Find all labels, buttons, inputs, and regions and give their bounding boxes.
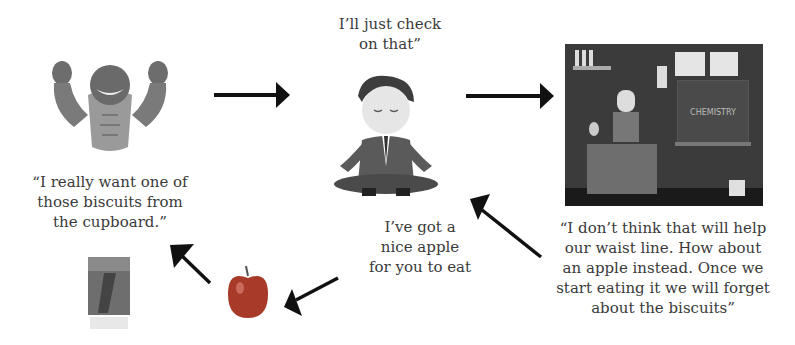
arrow-offer-to-apple (284, 278, 338, 316)
meditating-man-icon (322, 70, 448, 200)
shelf (573, 66, 611, 70)
test-tube (589, 50, 593, 66)
poster (675, 52, 705, 76)
teacher-body (613, 112, 639, 142)
biscuit-box-icon (84, 253, 134, 333)
flask (589, 122, 599, 136)
books (729, 180, 745, 196)
apple-icon (224, 264, 272, 320)
chemistry-teacher-icon: CHEMISTRY (565, 44, 763, 206)
impulse-caption: “I really want one of those biscuits fro… (20, 172, 200, 232)
teacher-head (617, 90, 635, 112)
reason-caption: “I don’t think that will help our waist … (538, 218, 788, 318)
test-tube (575, 50, 579, 66)
note (657, 66, 667, 88)
chalkboard: CHEMISTRY (677, 80, 749, 144)
poster (710, 52, 738, 76)
arrow-impulse-to-pause (214, 82, 290, 108)
arrow-apple-to-biscuits (170, 244, 210, 283)
offer-caption: I’ve got a nice apple for you to eat (345, 217, 495, 277)
arrow-pause-to-reason (466, 83, 554, 109)
lab-desk (587, 144, 657, 194)
chalk-tray (675, 142, 751, 146)
muscular-beast-icon (44, 55, 176, 153)
chalkboard-text: CHEMISTRY (690, 108, 736, 117)
pause-caption: I’ll just check on that” (320, 14, 460, 54)
test-tube (582, 50, 586, 66)
